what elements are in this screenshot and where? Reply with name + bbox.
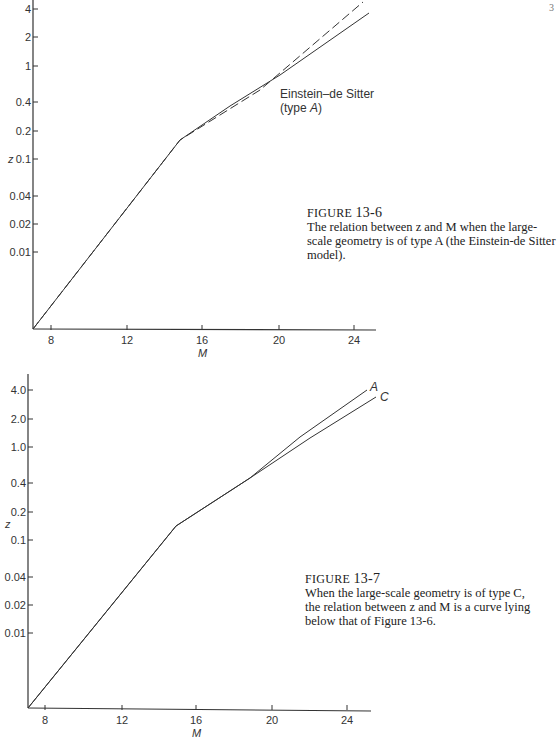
y-tick-label: 0.04: [10, 190, 31, 202]
x-tick-label: 8: [42, 714, 48, 726]
x-axis-label-2: M: [192, 727, 202, 737]
figure-13-6-title: FIGURE 13-6: [307, 206, 559, 220]
figure-13-7-title: FIGURE 13-7: [305, 572, 540, 586]
curve-annotation-line1: Einstein–de Sitter: [280, 87, 374, 101]
x-axis-ticks: 812162024: [48, 325, 360, 346]
x-axis-label: M: [198, 347, 208, 359]
y-tick-label: 0.4: [11, 477, 26, 489]
y-tick-label: 0.02: [5, 599, 26, 611]
curve-c: [28, 397, 376, 708]
x-tick-label: 12: [116, 714, 128, 726]
x-tick-label: 8: [48, 334, 54, 346]
y-tick-label: 0.04: [5, 571, 26, 583]
figure-13-7-text: When the large-scale geometry is of type…: [305, 586, 540, 628]
y-tick-label: 1.0: [11, 441, 26, 453]
x-tick-label: 24: [348, 334, 360, 346]
x-tick-label: 16: [196, 334, 208, 346]
y-tick-label: 0.01: [5, 627, 26, 639]
figure-label: FIGURE: [307, 206, 352, 220]
figure-label: FIGURE: [305, 572, 350, 586]
einstein-de-sitter-curve: [33, 13, 369, 329]
y-tick-label: 0.02: [10, 218, 31, 230]
y-axis-ticks-2: 4.02.01.00.40.20.10.040.020.01: [5, 384, 33, 639]
dashed-line-linear: [33, 2, 363, 329]
x-axis: [33, 329, 376, 330]
y-tick-label: 2.0: [11, 413, 26, 425]
figure-number: 13-6: [355, 205, 382, 220]
y-tick-label: 0.1: [16, 153, 31, 165]
y-tick-label: 0.1: [11, 534, 26, 546]
y-tick-label: 1: [25, 60, 31, 72]
curve-label-c: C: [380, 390, 389, 404]
x-axis-2: [28, 708, 371, 711]
y-axis-ticks: 4210.40.20.10.040.020.01: [10, 3, 38, 258]
curve-a: [28, 390, 367, 708]
x-tick-label: 24: [341, 714, 353, 726]
y-tick-label: 0.01: [10, 246, 31, 258]
y-tick-label: 4: [25, 3, 31, 15]
y-tick-label: 0.2: [16, 125, 31, 137]
figure-number: 13-7: [353, 571, 380, 586]
y-axis-label-2: z: [4, 518, 11, 530]
curve-annotation-line2: (type A): [280, 101, 322, 115]
y-tick-label: 0.4: [16, 96, 31, 108]
figure-13-7-caption: FIGURE 13-7 When the large-scale geometr…: [305, 572, 540, 628]
x-tick-label: 20: [266, 714, 278, 726]
curve-label-a: A: [369, 380, 378, 394]
y-tick-label: 4.0: [11, 384, 26, 396]
x-tick-label: 12: [121, 334, 133, 346]
y-tick-label: 0.2: [11, 506, 26, 518]
y-tick-label: 2: [25, 31, 31, 43]
figure-13-6-text: The relation between z and M when the la…: [307, 220, 559, 262]
y-axis-label: z: [7, 153, 14, 165]
figure-13-6-caption: FIGURE 13-6 The relation between z and M…: [307, 206, 559, 262]
x-tick-label: 20: [273, 334, 285, 346]
x-tick-label: 16: [190, 714, 202, 726]
